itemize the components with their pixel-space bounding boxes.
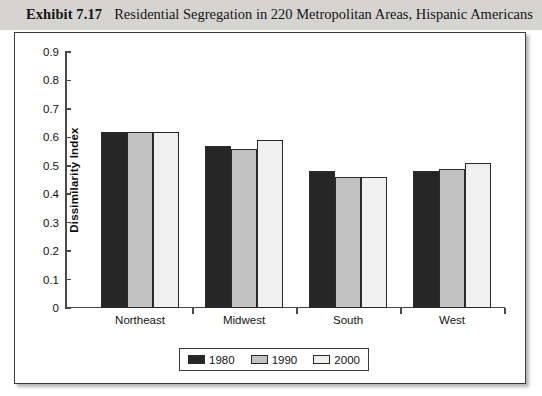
x-axis-category-label: Midwest xyxy=(223,314,265,326)
y-axis-line xyxy=(65,52,67,308)
bar xyxy=(465,163,491,308)
legend-label-2000: 2000 xyxy=(334,354,360,366)
y-axis-label: 0.1 xyxy=(43,274,59,286)
x-axis-tick xyxy=(296,308,298,314)
bar xyxy=(257,140,283,308)
legend-label-1990: 1990 xyxy=(272,354,298,366)
y-axis-label: 0.9 xyxy=(43,46,59,58)
bar xyxy=(439,169,465,308)
y-axis-label: 0.8 xyxy=(43,74,59,86)
x-axis-tick xyxy=(400,308,402,314)
bar xyxy=(231,149,257,308)
y-axis-title: Dissimilarity Index xyxy=(68,127,80,232)
legend-item-2000: 2000 xyxy=(313,354,360,366)
bar xyxy=(205,146,231,308)
legend-swatch-1980 xyxy=(188,355,205,364)
y-axis-label: 0.3 xyxy=(43,217,59,229)
y-axis-tick xyxy=(65,137,71,139)
chart-legend: 1980 1990 2000 xyxy=(179,348,369,371)
plot-area: Dissimilarity Index 0.90.80.70.60.50.40.… xyxy=(65,52,505,308)
y-axis-tick xyxy=(65,222,71,224)
legend-swatch-1990 xyxy=(251,355,268,364)
y-axis-tick xyxy=(65,108,71,110)
bar xyxy=(361,177,387,308)
y-axis-tick xyxy=(65,193,71,195)
exhibit-title: Residential Segregation in 220 Metropoli… xyxy=(114,6,533,22)
legend-item-1980: 1980 xyxy=(188,354,235,366)
exhibit-container: Exhibit 7.17Residential Segregation in 2… xyxy=(0,0,542,396)
legend-swatch-2000 xyxy=(313,355,330,364)
bar xyxy=(153,132,179,308)
bar xyxy=(309,171,335,308)
bar xyxy=(335,177,361,308)
y-axis-tick xyxy=(65,250,71,252)
chart-frame: Dissimilarity Index 0.90.80.70.60.50.40.… xyxy=(14,32,526,384)
bar-group xyxy=(413,52,491,308)
y-axis-label: 0.2 xyxy=(43,245,59,257)
x-axis-category-label: West xyxy=(439,314,465,326)
bar-group xyxy=(205,52,283,308)
bar-group xyxy=(309,52,387,308)
bar xyxy=(101,132,127,308)
y-axis-label: 0.4 xyxy=(43,188,59,200)
bar xyxy=(127,132,153,308)
legend-item-1990: 1990 xyxy=(251,354,298,366)
x-axis-tick xyxy=(192,308,194,314)
bar xyxy=(413,171,439,308)
y-axis-label: 0.5 xyxy=(43,160,59,172)
exhibit-caption-band: Exhibit 7.17Residential Segregation in 2… xyxy=(0,0,542,30)
exhibit-caption: Exhibit 7.17Residential Segregation in 2… xyxy=(26,6,533,23)
legend-label-1980: 1980 xyxy=(209,354,235,366)
y-axis-tick xyxy=(65,80,71,82)
y-axis-tick xyxy=(65,165,71,167)
exhibit-number: Exhibit 7.17 xyxy=(26,6,102,22)
x-axis-category-label: South xyxy=(333,314,363,326)
y-axis-label: 0 xyxy=(53,302,59,314)
y-axis-tick xyxy=(65,51,71,53)
y-axis-label: 0.6 xyxy=(43,131,59,143)
bar-group xyxy=(101,52,179,308)
y-axis-tick xyxy=(65,307,71,309)
y-axis-label: 0.7 xyxy=(43,103,59,115)
x-axis-category-label: Northeast xyxy=(115,314,165,326)
y-axis-tick xyxy=(65,279,71,281)
x-axis-tick xyxy=(504,308,506,314)
